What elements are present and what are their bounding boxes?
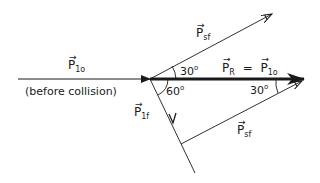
angle-label-right: 30o (250, 84, 268, 96)
label-psf-lower: → Psf (237, 124, 251, 139)
label-resultant-equation: → PR = → P1o (222, 62, 278, 77)
angle-arc-right (276, 79, 278, 93)
label-psf-upper: → Psf (196, 27, 210, 42)
angle-label-upper: 30o (180, 65, 198, 77)
label-p1f: → P1f (134, 106, 149, 121)
angle-label-lower-left: 60o (166, 85, 184, 97)
label-before-collision: (before collision) (25, 86, 117, 97)
label-p1o: → P1o (68, 59, 85, 74)
angle-arc-upper (172, 66, 176, 79)
